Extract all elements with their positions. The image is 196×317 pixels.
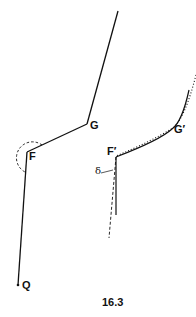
label-q: Q — [22, 280, 31, 291]
label-g-prime: G′ — [174, 124, 185, 135]
figure-caption: 16.3 — [102, 296, 123, 308]
label-delta: δ — [95, 166, 101, 176]
point-q — [17, 284, 20, 287]
figure-16-3: G F Q G′ F′ δ 16.3 — [0, 0, 196, 317]
segment-g-f — [27, 124, 87, 152]
dotted-curve — [116, 75, 196, 156]
segment-top-g — [87, 11, 118, 124]
dashed-reference-line — [109, 157, 116, 238]
label-g: G — [90, 120, 99, 131]
left-linkage — [16, 11, 118, 286]
delta-leader — [101, 170, 113, 173]
label-f: F — [29, 151, 36, 162]
segment-f-q — [18, 152, 27, 285]
label-f-prime: F′ — [107, 146, 116, 157]
